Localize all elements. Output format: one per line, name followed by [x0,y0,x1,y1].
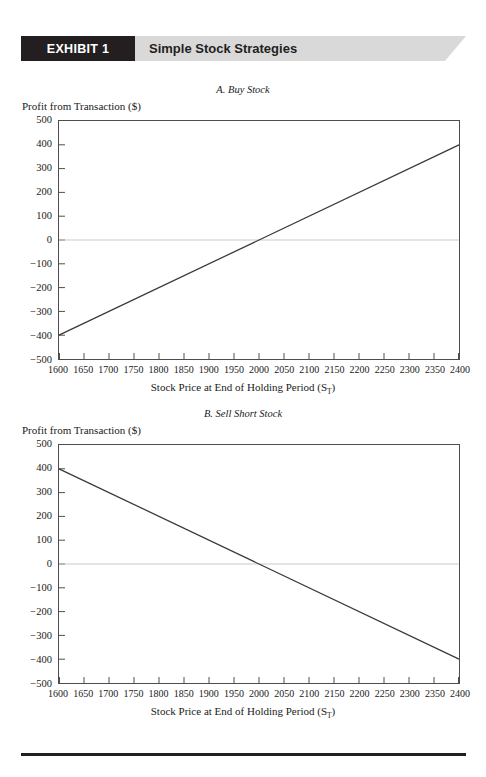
footer-rule [21,753,466,756]
y-tick-label: 400 [18,139,52,149]
y-tick-label: −100 [18,259,52,269]
exhibit-tag-label: EXHIBIT 1 [47,42,109,56]
y-tick-label: 200 [18,187,52,197]
y-tick-label: 300 [18,163,52,173]
x-axis-label-a-prefix: Stock Price at End of Holding Period (S [151,381,327,393]
plot-svg-a [59,121,459,359]
x-tick-label: 2400 [440,364,480,375]
y-tick-label: 100 [18,535,52,545]
y-tick-label: 500 [18,439,52,449]
y-tick-label: −200 [18,607,52,617]
x-tick-label: 2400 [440,688,480,699]
x-tick-marks-b [59,677,458,683]
y-tick-label: −100 [18,583,52,593]
x-axis-label-b: Stock Price at End of Holding Period (ST… [0,705,486,720]
exhibit-tag: EXHIBIT 1 [21,36,135,61]
x-axis-label-a: Stock Price at End of Holding Period (ST… [0,381,486,396]
y-axis-tick-labels-a: 5004003002001000−100−200−300−400−500 [18,120,52,360]
y-tick-label: 500 [18,115,52,125]
y-tick-label: −400 [18,331,52,341]
x-axis-tick-labels-a: 1600165017001750180018501900195020002050… [58,364,460,378]
x-axis-label-b-suffix: ) [332,705,336,717]
plot-area-b [58,444,460,684]
chart-caption-a: A. Buy Stock [0,84,486,95]
plot-svg-b [59,445,459,683]
x-axis-tick-labels-b: 1600165017001750180018501900195020002050… [58,688,460,702]
y-axis-tick-labels-b: 5004003002001000−100−200−300−400−500 [18,444,52,684]
y-tick-label: 400 [18,463,52,473]
x-axis-label-a-suffix: ) [332,381,336,393]
y-tick-label: −200 [18,283,52,293]
exhibit-banner: EXHIBIT 1 Simple Stock Strategies [21,36,466,61]
y-tick-label: −300 [18,307,52,317]
y-tick-label: 0 [18,559,52,569]
y-tick-label: 0 [18,235,52,245]
y-tick-label: −400 [18,655,52,665]
x-tick-marks-a [59,353,458,359]
y-tick-label: −300 [18,631,52,641]
y-tick-label: 200 [18,511,52,521]
x-axis-label-b-prefix: Stock Price at End of Holding Period (S [151,705,327,717]
y-axis-label-a: Profit from Transaction ($) [22,100,141,112]
y-tick-label: 300 [18,487,52,497]
y-axis-label-b: Profit from Transaction ($) [22,424,141,436]
plot-area-a [58,120,460,360]
exhibit-title: Simple Stock Strategies [149,36,297,61]
chart-caption-b: B. Sell Short Stock [0,408,486,419]
y-tick-label: 100 [18,211,52,221]
